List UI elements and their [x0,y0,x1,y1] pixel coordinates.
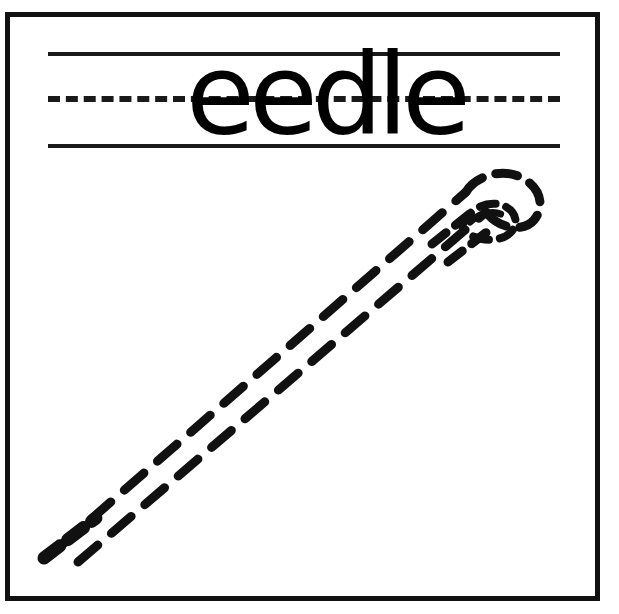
handwriting-worksheet: eedle needle [0,0,619,614]
needle-shaft-upper-edge [58,192,466,548]
needle-shaft-lower-edge [78,212,486,562]
needle-illustration [0,0,619,614]
